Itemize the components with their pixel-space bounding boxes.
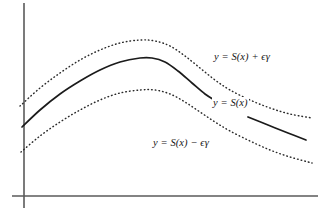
label-main-curve: y = S(x) [212, 97, 249, 109]
figure-canvas: y = S(x) + ϵγ y = S(x) y = S(x) − ϵγ [0, 0, 322, 220]
curve-lower-envelope [21, 90, 312, 163]
curve-main-segment-left [22, 57, 216, 127]
label-lower-envelope: y = S(x) − ϵγ [152, 137, 210, 149]
figure-plot-area [0, 0, 322, 220]
curve-main-segment-right [248, 117, 306, 140]
label-upper-envelope: y = S(x) + ϵγ [213, 51, 271, 63]
